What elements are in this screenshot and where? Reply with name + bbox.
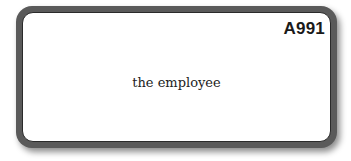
canvas: A991 the employee <box>0 0 351 161</box>
entity-card-body: A991 the employee <box>22 12 331 142</box>
card-text: the employee <box>23 75 330 90</box>
entity-card: A991 the employee <box>16 6 337 148</box>
card-id-label: A991 <box>284 19 325 39</box>
